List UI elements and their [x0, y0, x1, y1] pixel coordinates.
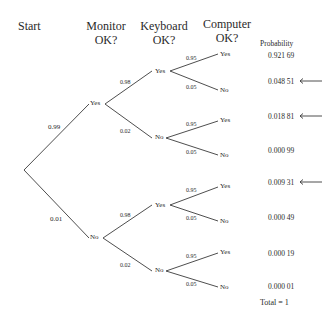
level3-node-2: Yes	[220, 117, 230, 124]
header-probability: Probability	[260, 40, 293, 48]
header-computer-line2: OK?	[200, 32, 254, 44]
level1-no-node: No	[90, 234, 99, 241]
header-keyboard-line2: OK?	[138, 34, 190, 46]
level3-prob-7: 0.05	[186, 281, 197, 287]
level3-node-4: Yes	[220, 183, 230, 190]
level3-prob-5: 0.05	[186, 215, 197, 221]
level3-prob-1: 0.05	[186, 84, 197, 90]
level3-prob-6: 0.95	[186, 253, 197, 259]
outcome-probability-4: 0.009 31	[268, 179, 294, 187]
header-monitor-line1: Monitor	[78, 20, 134, 32]
level3-prob-0: 0.95	[186, 55, 197, 61]
level3-node-1: No	[220, 87, 229, 94]
header-start: Start	[18, 20, 41, 32]
outcome-probability-7: 0.000 01	[268, 283, 294, 291]
level2-node-0: Yes	[155, 68, 165, 75]
level1-yes-node: Yes	[90, 100, 100, 107]
level2-prob-0: 0.98	[120, 79, 131, 85]
level3-prob-3: 0.05	[186, 149, 197, 155]
level2-node-3: No	[155, 267, 164, 274]
level3-node-3: No	[220, 152, 229, 159]
outcome-probability-1: 0.048 51	[268, 78, 294, 86]
header-keyboard: Keyboard OK?	[138, 20, 190, 46]
level2-node-2: Yes	[155, 202, 165, 209]
level3-prob-2: 0.95	[186, 121, 197, 127]
total-label: Total = 1	[260, 299, 289, 307]
level2-prob-2: 0.98	[120, 212, 131, 218]
header-computer-line1: Computer	[200, 18, 254, 30]
level2-prob-3: 0.02	[120, 262, 131, 268]
level3-node-5: No	[220, 218, 229, 225]
arrow-icons	[300, 79, 322, 185]
header-computer: Computer OK?	[200, 18, 254, 44]
header-monitor-line2: OK?	[78, 34, 134, 46]
level3-node-0: Yes	[220, 51, 230, 58]
header-monitor: Monitor OK?	[78, 20, 134, 46]
outcome-probability-2: 0.018 81	[268, 113, 294, 121]
level2-node-1: No	[155, 134, 164, 141]
header-keyboard-line1: Keyboard	[138, 20, 190, 32]
outcome-probability-0: 0.921 69	[268, 52, 294, 60]
level1-no-prob: 0.01	[50, 216, 62, 223]
level3-node-6: Yes	[220, 249, 230, 256]
outcome-probability-6: 0.000 19	[268, 250, 294, 258]
level3-prob-4: 0.95	[186, 187, 197, 193]
level2-prob-1: 0.02	[120, 128, 131, 134]
level3-node-7: No	[220, 284, 229, 291]
outcome-probability-3: 0.000 99	[268, 147, 294, 155]
level1-yes-prob: 0.99	[48, 124, 60, 131]
outcome-probability-5: 0.000 49	[268, 214, 294, 222]
